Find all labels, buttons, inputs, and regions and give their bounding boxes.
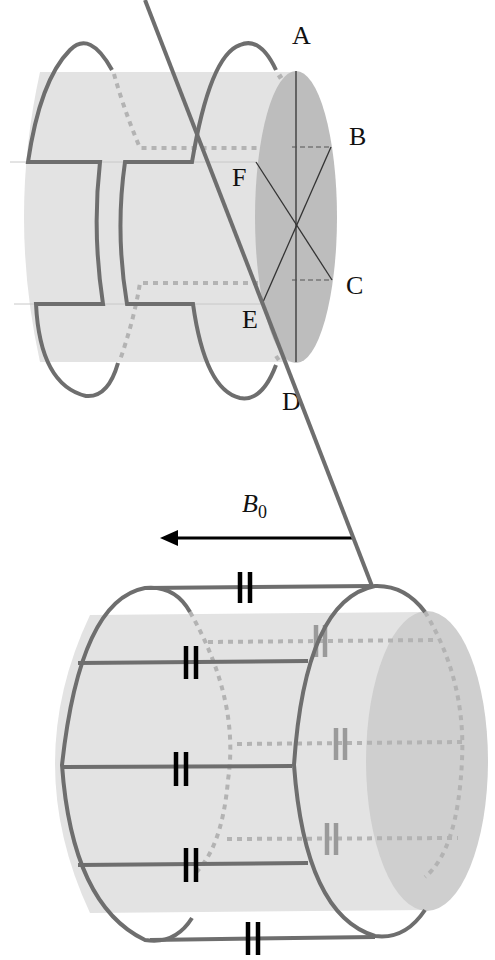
label-C: C xyxy=(346,271,363,300)
hidden-rung-2 xyxy=(237,742,462,744)
rung-1 xyxy=(78,661,308,663)
field-label: B0 xyxy=(242,489,267,522)
saddle-coil-diagram: A B C D E F xyxy=(10,21,366,416)
b0-arrow-icon xyxy=(160,530,354,546)
label-A: A xyxy=(292,21,311,50)
label-E: E xyxy=(242,305,258,334)
capacitor-top xyxy=(235,572,255,603)
label-F: F xyxy=(232,163,246,192)
top-rung-wire xyxy=(145,586,372,588)
label-B: B xyxy=(349,122,366,151)
figure-canvas: A B C D E F B0 xyxy=(0,0,495,960)
rung-3 xyxy=(78,863,308,865)
bottom-rung-wire xyxy=(150,937,375,940)
end-face-2 xyxy=(366,611,488,911)
